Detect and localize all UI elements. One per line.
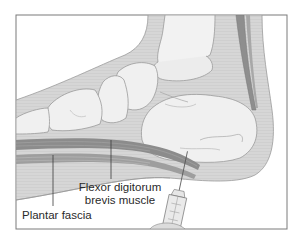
label-plantar-fascia: Plantar fascia <box>22 209 92 222</box>
label-flexor-digitorum-brevis: Flexor digitorum brevis muscle <box>72 181 168 207</box>
anatomy-figure: Flexor digitorum brevis muscle Plantar f… <box>0 0 301 242</box>
label-flexor-line1: Flexor digitorum <box>72 181 168 194</box>
label-flexor-line2: brevis muscle <box>72 194 168 207</box>
